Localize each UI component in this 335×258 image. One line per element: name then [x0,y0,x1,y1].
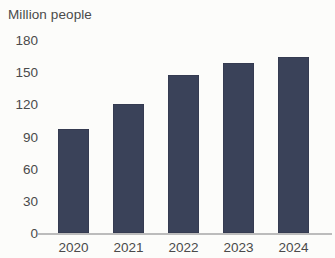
x-axis: 20202021202220232024 [0,0,335,258]
x-axis-tick-label: 2023 [211,240,267,255]
x-axis-tick-label: 2021 [101,240,157,255]
x-axis-tick-label: 2024 [266,240,322,255]
x-axis-tick-label: 2022 [156,240,212,255]
x-axis-tick-label: 2020 [46,240,102,255]
bar-chart: Million people 0306090120150180 20202021… [0,0,335,258]
